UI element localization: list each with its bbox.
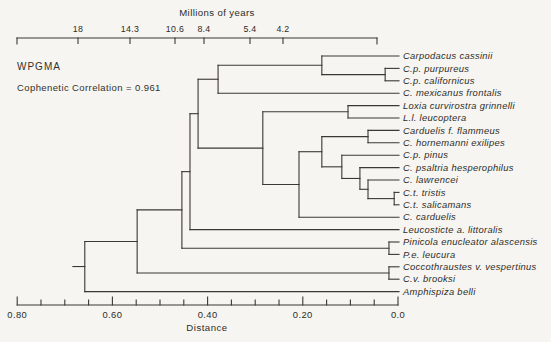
leaf-label: C. mexicanus frontalis: [403, 87, 502, 98]
leaf-label: Pinicola enucleator alascensis: [403, 236, 538, 247]
bottom-axis-tick-label: 0.20: [293, 309, 313, 320]
bottom-axis-tick-label: 0.40: [198, 309, 218, 320]
dendrogram-svg: Carpodacus cassiniiC.p. purpureusC.p. ca…: [0, 0, 551, 342]
leaf-label: C. hornemanni exilipes: [403, 137, 505, 148]
leaf-label: Coccothraustes v. vespertinus: [403, 261, 537, 272]
top-axis-tick-label: 5.4: [243, 24, 256, 34]
bottom-axis-tick-label: 0.80: [7, 309, 27, 320]
leaf-label: C. psaltria hesperophilus: [403, 162, 514, 173]
bottom-axis-tick-label: 0.0: [391, 309, 405, 320]
bottom-axis-title: Distance: [186, 322, 227, 333]
leaf-label: L.l. leucoptera: [403, 112, 466, 123]
top-axis-tick-label: 10.6: [166, 24, 184, 34]
top-axis-tick-label: 4.2: [276, 24, 289, 34]
leaf-label: P.e. leucura: [403, 249, 455, 260]
leaf-label: Carpodacus cassinii: [403, 50, 493, 61]
bottom-axis-tick-label: 0.60: [102, 309, 122, 320]
leaf-label: Leucosticte a. littoralis: [403, 224, 503, 235]
leaf-label: C.t. salicamans: [403, 199, 472, 210]
dendrogram-figure: Carpodacus cassiniiC.p. purpureusC.p. ca…: [0, 0, 551, 342]
leaf-label: C. carduelis: [403, 211, 456, 222]
leaf-label: Loxia curvirostra grinnelli: [403, 100, 515, 111]
leaf-label: C. lawrencei: [403, 174, 459, 185]
leaf-label: C.p. pinus: [403, 149, 448, 160]
leaf-label: C.t. tristis: [403, 187, 446, 198]
leaf-label: Carduelis f. flammeus: [403, 125, 500, 136]
top-axis-tick-label: 8.4: [197, 24, 210, 34]
cophenetic-correlation-label: Cophenetic Correlation = 0.961: [17, 82, 161, 93]
leaf-label: Amphispiza belli: [402, 286, 476, 297]
leaf-label: C.p. purpureus: [403, 63, 469, 74]
leaf-label: C.p. californicus: [403, 75, 475, 86]
top-axis-tick-label: 18: [73, 24, 83, 34]
top-axis-tick-label: 14.3: [121, 24, 139, 34]
top-axis-title: Millions of years: [179, 7, 255, 18]
method-label: WPGMA: [17, 61, 61, 72]
leaf-label: C.v. brooksi: [403, 273, 456, 284]
